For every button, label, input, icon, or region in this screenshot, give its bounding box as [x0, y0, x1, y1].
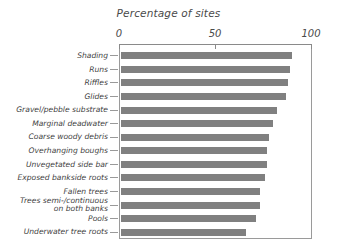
bar-leader-line: [110, 205, 118, 206]
bar-leader-line: [110, 110, 118, 111]
bar-row: Trees semi-/continuous on both banks: [0, 198, 337, 212]
bar-category-label: Exposed bankside roots: [0, 174, 108, 182]
bar: [121, 147, 267, 154]
bar-leader-line: [110, 177, 118, 178]
bar-row: Pools: [0, 212, 337, 226]
bar: [121, 120, 273, 127]
bar-category-label: Unvegetated side bar: [0, 161, 108, 169]
bar-category-label: Coarse woody debris: [0, 133, 108, 141]
bar-category-label: Trees semi-/continuous on both banks: [0, 197, 108, 212]
bar-row: Unvegetated side bar: [0, 158, 337, 172]
bar: [121, 52, 292, 59]
bar-leader-line: [110, 191, 118, 192]
bar-category-label: Runs: [0, 66, 108, 74]
bar-category-label: Fallen trees: [0, 188, 108, 196]
bar: [121, 79, 288, 86]
bar-category-label: Underwater tree roots: [0, 228, 108, 236]
bar-category-label: Gravel/pebble substrate: [0, 106, 108, 114]
bar-rows: ShadingRunsRifflesGlidesGravel/pebble su…: [0, 49, 337, 239]
bar-category-label: Shading: [0, 52, 108, 60]
bar-chart: Percentage of sites 050100 ShadingRunsRi…: [0, 0, 337, 251]
bar-leader-line: [110, 218, 118, 219]
bar-leader-line: [110, 55, 118, 56]
bar-category-label: Marginal deadwater: [0, 120, 108, 128]
bar-row: Gravel/pebble substrate: [0, 103, 337, 117]
bar: [121, 107, 277, 114]
bar-row: Glides: [0, 90, 337, 104]
bar-row: Marginal deadwater: [0, 117, 337, 131]
bar-leader-line: [110, 69, 118, 70]
bar-row: Runs: [0, 63, 337, 77]
bar: [121, 134, 269, 141]
bar: [121, 215, 256, 222]
bar: [121, 93, 286, 100]
bar: [121, 66, 290, 73]
bar-row: Riffles: [0, 76, 337, 90]
bar-category-label: Riffles: [0, 79, 108, 87]
bar-leader-line: [110, 123, 118, 124]
bar-leader-line: [110, 82, 118, 83]
bar-category-label: Pools: [0, 215, 108, 223]
bar: [121, 161, 267, 168]
bar: [121, 229, 246, 236]
bar-category-label: Glides: [0, 93, 108, 101]
bar-row: Overhanging boughs: [0, 144, 337, 158]
bar-leader-line: [110, 96, 118, 97]
bar-row: Underwater tree roots: [0, 225, 337, 239]
bar-leader-line: [110, 164, 118, 165]
bar-category-label: Overhanging boughs: [0, 147, 108, 155]
x-axis-tick-label: 100: [301, 28, 320, 39]
bar: [121, 188, 260, 195]
bar-row: Exposed bankside roots: [0, 171, 337, 185]
x-axis-tick-label: 0: [116, 28, 122, 39]
bar: [121, 174, 265, 181]
bar-leader-line: [110, 232, 118, 233]
bar-row: Shading: [0, 49, 337, 63]
x-axis-tick-label: 50: [209, 28, 222, 39]
bar: [121, 202, 260, 209]
bar-leader-line: [110, 150, 118, 151]
bar-row: Coarse woody debris: [0, 130, 337, 144]
bar-leader-line: [110, 137, 118, 138]
